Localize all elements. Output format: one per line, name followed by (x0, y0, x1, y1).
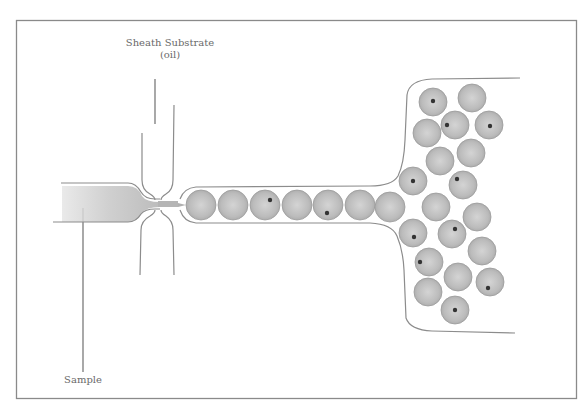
encapsulated-cell (411, 179, 415, 183)
droplet (457, 139, 485, 167)
droplet (463, 203, 491, 231)
encapsulated-cell (445, 123, 449, 127)
chamber-droplets (399, 84, 504, 324)
droplet (422, 193, 450, 221)
droplet (458, 84, 486, 112)
droplet (449, 171, 477, 199)
droplet (468, 237, 496, 265)
oil-channel-top-left (142, 133, 155, 200)
droplet (250, 190, 280, 220)
droplet (414, 278, 442, 306)
sheath-label-line1: Sheath Substrate (110, 37, 230, 49)
encapsulated-cell (325, 211, 329, 215)
sample-label: Sample (50, 374, 116, 386)
droplet (426, 147, 454, 175)
droplet (413, 119, 441, 147)
encapsulated-cell (431, 99, 435, 103)
droplet (476, 268, 504, 296)
droplet (186, 190, 216, 220)
channel-droplets (186, 190, 405, 222)
junction-tip (178, 203, 186, 207)
droplet (282, 190, 312, 220)
sheath-substrate-label: Sheath Substrate (oil) (110, 37, 230, 61)
encapsulated-cell (418, 260, 422, 264)
oil-channel-bottom-right (161, 210, 174, 275)
diagram-canvas (0, 0, 585, 410)
encapsulated-cell (455, 177, 459, 181)
droplet (218, 190, 248, 220)
encapsulated-cell (268, 198, 272, 202)
droplet (313, 190, 343, 220)
droplet (438, 220, 466, 248)
droplet (375, 192, 405, 222)
droplet (345, 190, 375, 220)
encapsulated-cell (453, 227, 457, 231)
oil-channel-bottom-left (140, 210, 155, 275)
junction-neck (158, 201, 178, 207)
droplet (444, 263, 472, 291)
oil-channel-top-right (161, 105, 174, 200)
sheath-label-line2: (oil) (110, 49, 230, 61)
encapsulated-cell (453, 308, 457, 312)
encapsulated-cell (486, 286, 490, 290)
encapsulated-cell (488, 124, 492, 128)
encapsulated-cell (412, 235, 416, 239)
droplet (399, 219, 427, 247)
